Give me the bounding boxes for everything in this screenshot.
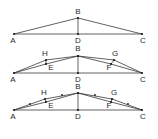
point-label-C: C: [140, 112, 146, 121]
subdivision-dot: [94, 94, 96, 96]
diagram-stage-3: BHGEFADC: [0, 0, 158, 139]
subdivision-dot: [61, 94, 63, 96]
point-H: [44, 98, 46, 100]
subdivision-dot: [127, 103, 129, 105]
point-G: [111, 98, 113, 100]
point-label-A: A: [10, 112, 16, 121]
segment-BG: [78, 93, 112, 99]
point-label-F: F: [107, 101, 112, 110]
point-D: [77, 109, 79, 111]
subdivision-dot: [29, 103, 31, 105]
segment-HB: [45, 93, 78, 99]
point-B: [77, 92, 79, 94]
point-label-E: E: [48, 101, 53, 110]
segment-FC: [111, 102, 142, 110]
point-C: [141, 109, 143, 111]
point-label-B: B: [75, 82, 80, 91]
point-E: [45, 101, 47, 103]
curve-construction-diagrams: BADC BHGEFADC BHGEFADC: [0, 0, 158, 139]
point-label-D: D: [75, 112, 81, 121]
point-label-H: H: [41, 88, 47, 97]
point-A: [13, 109, 15, 111]
point-label-G: G: [111, 88, 117, 97]
segment-GC: [112, 99, 142, 110]
